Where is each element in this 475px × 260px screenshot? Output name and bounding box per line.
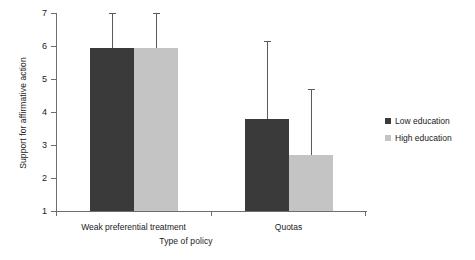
error-bar xyxy=(311,89,312,155)
y-axis-line xyxy=(56,13,57,212)
y-axis-tick-label: 4 xyxy=(42,112,47,113)
y-axis-tick xyxy=(51,112,56,113)
y-axis-title: Support for affirmative action xyxy=(18,28,28,198)
bar xyxy=(134,48,178,211)
error-bar-cap xyxy=(308,89,315,90)
chart-legend: Low education High education xyxy=(385,116,452,150)
y-axis-tick xyxy=(51,79,56,80)
error-bar xyxy=(156,13,157,48)
legend-item-low: Low education xyxy=(385,116,452,126)
legend-label: High education xyxy=(395,133,452,143)
x-axis-tick xyxy=(211,211,212,216)
bar xyxy=(90,48,134,211)
y-axis-tick-label: 1 xyxy=(42,211,47,212)
y-axis-tick-label: 3 xyxy=(42,145,47,146)
legend-swatch-icon xyxy=(385,135,391,141)
plot-area: 1234567 Weak preferential treatmentQuota… xyxy=(56,13,366,211)
y-axis-tick xyxy=(51,13,56,14)
error-bar-cap xyxy=(264,41,271,42)
x-axis-title: Type of policy xyxy=(0,236,372,246)
bar xyxy=(245,119,289,211)
error-bar xyxy=(112,13,113,48)
y-axis-tick-label: 6 xyxy=(42,46,47,47)
x-axis-category-label: Quotas xyxy=(275,222,302,232)
y-axis-tick xyxy=(51,178,56,179)
y-axis-tick-label: 7 xyxy=(42,13,47,14)
bar-chart: Support for affirmative action Type of p… xyxy=(0,0,475,260)
x-axis-tick xyxy=(56,211,57,216)
legend-swatch-icon xyxy=(385,118,391,124)
y-axis-tick-label: 2 xyxy=(42,178,47,179)
bar xyxy=(289,155,333,211)
x-axis-tick xyxy=(365,211,366,216)
error-bar-cap xyxy=(109,13,116,14)
error-bar xyxy=(267,41,268,119)
x-axis-category-label: Weak preferential treatment xyxy=(81,222,186,232)
y-axis-tick xyxy=(51,46,56,47)
error-bar-cap xyxy=(153,13,160,14)
y-axis-tick xyxy=(51,145,56,146)
legend-item-high: High education xyxy=(385,133,452,143)
y-axis-tick-label: 5 xyxy=(42,79,47,80)
legend-label: Low education xyxy=(395,116,450,126)
